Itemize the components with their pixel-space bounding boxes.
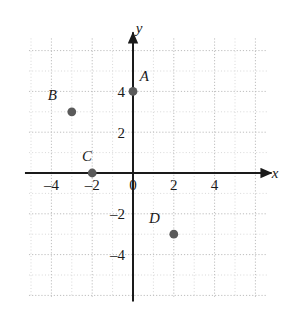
point-label-c: C xyxy=(82,148,93,164)
y-tick-label: –4 xyxy=(109,247,126,263)
y-tick-label: 2 xyxy=(118,125,126,141)
plot-background xyxy=(0,0,291,322)
data-point-d xyxy=(169,230,178,239)
data-point-b xyxy=(67,107,76,116)
point-label-d: D xyxy=(148,210,160,226)
x-tick-label: 2 xyxy=(170,177,178,193)
point-label-a: A xyxy=(139,68,150,84)
y-tick-label: 4 xyxy=(118,84,126,100)
x-tick-label: –2 xyxy=(84,177,100,193)
coordinate-plane-figure: –4–202442–2–4 ABCD x y xyxy=(0,0,291,322)
scatter-plot-svg: –4–202442–2–4 ABCD x y xyxy=(0,0,291,322)
x-axis-label: x xyxy=(271,165,279,181)
point-label-b: B xyxy=(48,87,57,103)
y-tick-label: –2 xyxy=(109,206,125,222)
data-point-c xyxy=(88,169,97,178)
x-tick-label: 0 xyxy=(129,177,137,193)
data-point-a xyxy=(129,87,138,96)
x-tick-label: –4 xyxy=(43,177,60,193)
y-axis-label: y xyxy=(134,20,143,36)
x-tick-label: 4 xyxy=(211,177,219,193)
